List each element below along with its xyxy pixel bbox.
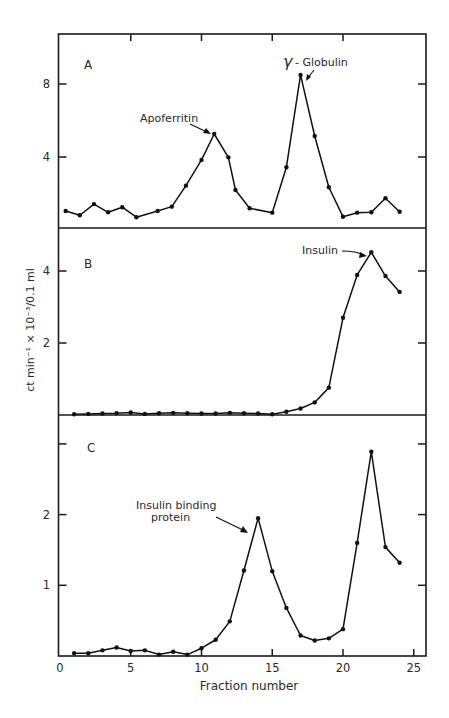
data-point (369, 449, 373, 453)
data-point (313, 400, 317, 404)
data-point (171, 650, 175, 654)
data-point (129, 649, 133, 653)
data-point (369, 250, 373, 254)
data-point (298, 73, 302, 77)
data-point (226, 155, 230, 159)
data-point (86, 651, 90, 655)
data-point (383, 545, 387, 549)
panel-label-a: A (84, 58, 93, 72)
data-point (270, 569, 274, 573)
arrowhead-icon (359, 252, 367, 258)
data-point (383, 274, 387, 278)
data-point (213, 411, 217, 415)
data-point (157, 411, 161, 415)
data-point (313, 638, 317, 642)
data-point (397, 210, 401, 214)
data-point (170, 204, 174, 208)
data-point (270, 412, 274, 416)
data-point (298, 633, 302, 637)
data-point (143, 648, 147, 652)
data-point (185, 652, 189, 656)
gamma-symbol: γ (283, 52, 294, 71)
data-point (355, 273, 359, 277)
data-point (284, 165, 288, 169)
annotation-insulin: Insulin (302, 244, 367, 258)
data-point (228, 619, 232, 623)
data-point (355, 541, 359, 545)
data-point (327, 185, 331, 189)
axes-frame (59, 34, 427, 656)
data-point (78, 213, 82, 217)
x-tick-label: 10 (194, 661, 209, 675)
ticks: 0510152025482412 (43, 34, 426, 675)
data-point (228, 411, 232, 415)
y-axis-label: ct min⁻¹ × 10⁻³/0.1 ml (24, 268, 37, 392)
y-tick-label: 4 (43, 150, 50, 164)
data-point (369, 210, 373, 214)
x-tick-label: 25 (406, 661, 421, 675)
ibp-label-line2: protein (151, 511, 190, 524)
data-point (143, 412, 147, 416)
series-line-a (66, 75, 400, 217)
data-point (86, 412, 90, 416)
y-tick-label: 2 (43, 508, 50, 522)
chromatography-chart: 0510152025482412 A B C Apoferritin γ - G… (0, 0, 449, 718)
arrow-icon (216, 517, 245, 531)
data-point (247, 206, 251, 210)
data-point (100, 648, 104, 652)
y-tick-label: 1 (43, 578, 50, 592)
data-point (256, 516, 260, 520)
data-point (63, 209, 67, 213)
data-point (114, 411, 118, 415)
data-point (72, 412, 76, 416)
data-point (256, 411, 260, 415)
data-point (100, 411, 104, 415)
data-point (233, 188, 237, 192)
data-point (114, 645, 118, 649)
data-point (242, 568, 246, 572)
data-point (327, 385, 331, 389)
series-line-c (74, 452, 399, 655)
annotation-insulin-binding-protein: Insulin binding protein (136, 499, 248, 533)
data-point (120, 205, 124, 209)
x-axis-label: Fraction number (200, 679, 299, 693)
data-point (327, 636, 331, 640)
x-tick-label: 15 (265, 661, 280, 675)
data-point (184, 183, 188, 187)
data-point (134, 215, 138, 219)
annotation-globulin: γ - Globulin (283, 52, 348, 81)
data-point (213, 638, 217, 642)
data-point (106, 210, 110, 214)
data-point (199, 411, 203, 415)
data-point (199, 646, 203, 650)
data-point (72, 651, 76, 655)
data-point (313, 134, 317, 138)
data-point (397, 290, 401, 294)
x-tick-label: 20 (336, 661, 351, 675)
x-tick-label: 0 (56, 661, 63, 675)
data-point (157, 652, 161, 656)
globulin-label: - Globulin (295, 56, 348, 69)
data-point (270, 210, 274, 214)
data-point (355, 210, 359, 214)
series-line-b (74, 252, 399, 414)
data-point (242, 411, 246, 415)
data-point (341, 316, 345, 320)
data-point (155, 209, 159, 213)
y-tick-label: 8 (43, 77, 50, 91)
data-point (383, 196, 387, 200)
y-tick-label: 4 (43, 264, 50, 278)
plot-border (59, 34, 427, 656)
data-point (199, 158, 203, 162)
data-point (212, 132, 216, 136)
x-tick-label: 5 (127, 661, 134, 675)
insulin-label: Insulin (302, 244, 338, 257)
data-point (185, 411, 189, 415)
y-tick-label: 2 (43, 336, 50, 350)
figure: 0510152025482412 A B C Apoferritin γ - G… (0, 0, 449, 718)
data-point (171, 411, 175, 415)
apoferritin-label: Apoferritin (140, 112, 198, 125)
panel-label-b: B (84, 257, 92, 271)
data-point (284, 410, 288, 414)
data-point (298, 406, 302, 410)
